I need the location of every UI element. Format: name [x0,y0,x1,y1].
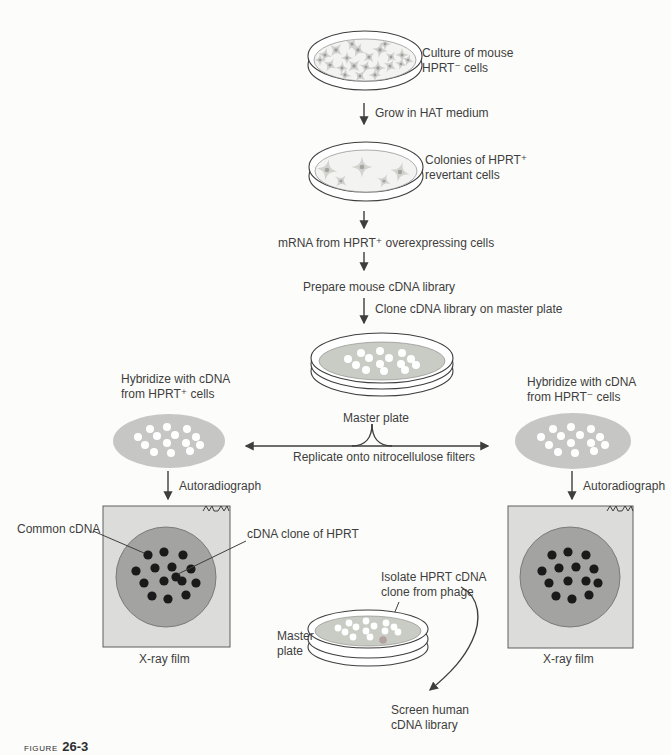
label-autoradiograph-left: Autoradiograph [179,479,261,494]
picked-hprt-clone-dot [379,636,387,644]
label-hybridize-left-line2: from HPRT⁺ cells [121,387,230,402]
label-replicate: Replicate onto nitrocellulose filters [293,450,475,465]
label-isolate-clone: Isolate HPRT cDNA clone from phage [381,570,487,600]
label-hybridize-right: Hybridize with cDNA from HPRT⁻ cells [527,375,636,405]
label-master-plate-top: Master plate [343,411,409,426]
nitrocellulose-filter-right [515,413,631,469]
figure-caption-prefix: FIGURE [24,744,58,753]
label-cdna-clone: cDNA clone of HPRT [247,527,359,542]
label-isolate-line2: clone from phage [381,585,487,600]
xray-film-left [103,506,230,647]
figure-caption: FIGURE 26-3 [24,737,88,755]
label-autoradiograph-right: Autoradiograph [583,479,665,494]
figure-caption-number: 26-3 [62,739,88,754]
replicate-brace-left [352,424,372,446]
label-hybridize-right-line1: Hybridize with cDNA [527,375,636,390]
label-common-cdna: Common cDNA [17,522,100,537]
label-clone: Clone cDNA library on master plate [375,302,562,317]
label-culture: Culture of mouse HPRT⁻ cells [422,46,513,76]
xray-film-right [508,506,633,648]
replicate-brace-right [372,424,392,446]
label-colonies-line1: Colonies of HPRT⁺ [425,153,527,168]
label-xray-right: X-ray film [543,652,594,667]
label-hybridize-right-line2: from HPRT⁻ cells [527,390,636,405]
label-colonies-line2: revertant cells [425,168,527,183]
label-culture-line1: Culture of mouse [422,46,513,61]
label-screen-library: Screen human cDNA library [391,703,469,733]
label-hybridize-left: Hybridize with cDNA from HPRT⁺ cells [121,372,230,402]
revertant-dish [309,142,423,201]
master-plate [311,333,453,396]
label-screen-line1: Screen human [391,703,469,718]
label-culture-line2: HPRT⁻ cells [422,61,513,76]
label-master-plate-bottom: Master plate [277,629,314,659]
label-prepare: Prepare mouse cDNA library [303,280,455,295]
label-screen-line2: cDNA library [391,718,469,733]
label-master-bottom-line1: Master [277,629,314,644]
label-hybridize-left-line1: Hybridize with cDNA [121,372,230,387]
nitrocellulose-filter-left [113,414,225,468]
label-colonies: Colonies of HPRT⁺ revertant cells [425,153,527,183]
label-xray-left: X-ray film [139,652,190,667]
label-master-bottom-line2: plate [277,644,314,659]
label-mrna: mRNA from HPRT⁺ overexpressing cells [278,236,494,251]
master-plate-bottom [308,610,428,666]
culture-dish [308,31,422,90]
arrow-screen-library [430,587,478,690]
label-grow-hat: Grow in HAT medium [375,106,489,121]
label-isolate-line1: Isolate HPRT cDNA [381,570,487,585]
